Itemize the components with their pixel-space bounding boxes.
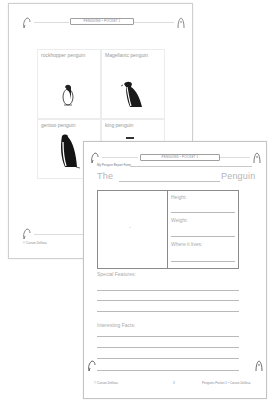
weight-line[interactable] xyxy=(171,236,235,237)
penguin-corner-icon xyxy=(87,360,97,372)
penguin-corner-icon xyxy=(176,17,186,29)
drawing-placeholder: ~ xyxy=(129,225,131,230)
header-divider-right xyxy=(220,157,250,158)
weight-label: Weight: xyxy=(171,217,188,223)
footer-page-number: 3 xyxy=(173,381,175,385)
special-features-line-3[interactable] xyxy=(97,311,239,312)
height-label: Height: xyxy=(171,194,187,200)
penguin-corner-icon xyxy=(252,152,262,164)
magellanic-penguin-icon xyxy=(118,80,148,110)
where-it-lives-label: Where it lives: xyxy=(171,241,202,247)
penguin-corner-icon xyxy=(254,360,264,372)
interesting-facts-line-3[interactable] xyxy=(97,358,239,359)
footer-divider xyxy=(34,234,84,235)
interesting-facts-line-1[interactable] xyxy=(97,336,239,337)
interesting-facts-line-2[interactable] xyxy=(97,347,239,348)
card-label: gentoo penguin xyxy=(41,122,75,128)
penguin-name-line[interactable] xyxy=(119,181,220,182)
form-name-line[interactable] xyxy=(130,166,252,167)
height-line[interactable] xyxy=(171,212,235,213)
interesting-facts-label: Interesting Facts: xyxy=(97,322,135,328)
card-label: rockhopper penguin xyxy=(41,52,85,58)
penguin-card-magellanic: Magellanic penguin xyxy=(101,49,165,119)
footer-copyright: © Carson-Dellosa xyxy=(23,241,47,245)
special-features-line-2[interactable] xyxy=(97,300,239,301)
title-prefix: The xyxy=(97,171,113,181)
header-divider-right xyxy=(134,22,174,23)
drawing-area[interactable]: ~ xyxy=(98,191,167,268)
king-penguin-icon xyxy=(126,137,134,139)
header-banner: PENGUINS • POCKET 1 xyxy=(70,18,134,25)
footer-copyright: © Carson-Dellosa xyxy=(94,381,118,385)
gentoo-penguin-icon xyxy=(56,134,82,170)
header-divider-left xyxy=(34,22,69,23)
penguin-corner-icon xyxy=(22,17,32,29)
info-box-divider xyxy=(167,191,168,268)
penguin-card-rockhopper: rockhopper penguin xyxy=(37,49,101,119)
special-features-line-1[interactable] xyxy=(97,290,239,291)
header-banner: PENGUINS • POCKET 1 xyxy=(140,154,220,161)
rockhopper-penguin-icon xyxy=(60,83,76,107)
penguin-corner-icon xyxy=(22,228,32,240)
info-box: ~ Height: Weight: Where it lives: xyxy=(97,190,239,269)
form-title: My Penguin Report Form: xyxy=(97,163,131,167)
special-features-label: Special Features: xyxy=(97,271,136,277)
card-label: Magellanic penguin xyxy=(105,52,148,58)
card-label: king penguin xyxy=(105,122,133,128)
where-it-lives-line[interactable] xyxy=(171,261,235,262)
title-suffix: Penguin xyxy=(221,171,255,181)
interesting-facts-line-4[interactable] xyxy=(97,370,239,371)
footer-book-title: Penguins Pocket 1 • Carson-Dellosa xyxy=(202,381,250,385)
header-divider-left xyxy=(102,157,138,158)
front-report-form-page: PENGUINS • POCKET 1 My Penguin Report Fo… xyxy=(83,141,267,399)
